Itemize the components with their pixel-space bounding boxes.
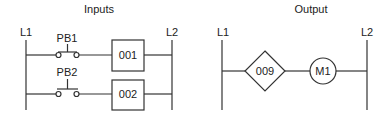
inputs-rail-right-label: L2 (166, 26, 178, 38)
output-rail-right-label: L2 (361, 26, 373, 38)
output-rung: 009 M1 (222, 51, 367, 91)
pushbutton-nc-icon (56, 44, 79, 58)
diamond-009-label: 009 (256, 65, 274, 77)
output-rail-left-label: L1 (217, 26, 229, 38)
inputs-rung-1: PB1 001 (26, 32, 172, 71)
block-001-label: 001 (119, 49, 137, 61)
inputs-diagram: Inputs L1 L2 PB1 001 (20, 3, 178, 110)
pb2-label: PB2 (57, 66, 78, 78)
inputs-title: Inputs (84, 3, 114, 15)
block-002-label: 002 (119, 88, 137, 100)
output-diagram: Output L1 L2 009 M1 (217, 3, 373, 110)
coil-m1-label: M1 (315, 65, 330, 77)
output-title: Output (294, 3, 327, 15)
inputs-rail-left-label: L1 (20, 26, 32, 38)
inputs-rung-2: PB2 002 (26, 66, 172, 110)
pushbutton-no-icon (56, 79, 79, 97)
pb1-label: PB1 (57, 32, 78, 44)
ladder-diagram: Inputs L1 L2 PB1 001 (0, 0, 390, 114)
